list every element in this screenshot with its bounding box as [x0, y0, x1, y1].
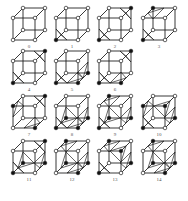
- cube-case-5: [54, 49, 90, 85]
- cube-case-8: [54, 94, 90, 130]
- vertex-marked: [76, 171, 80, 175]
- cube-case-7: [11, 94, 47, 130]
- vertex-unmarked: [11, 59, 15, 63]
- vertex-marked: [97, 126, 101, 130]
- vertex-marked: [64, 161, 68, 165]
- vertex-marked: [54, 126, 58, 130]
- vertex-unmarked: [21, 49, 25, 53]
- vertex-unmarked: [107, 49, 111, 53]
- isosurface-triangle: [110, 72, 126, 83]
- vertex-unmarked: [64, 94, 68, 98]
- vertex-unmarked: [11, 38, 15, 42]
- cube-case-14: [141, 139, 177, 175]
- vertex-marked: [43, 161, 47, 165]
- vertex-unmarked: [141, 149, 145, 153]
- vertex-unmarked: [43, 28, 47, 32]
- vertex-unmarked: [119, 38, 123, 42]
- isosurface-triangle: [13, 101, 24, 117]
- vertex-unmarked: [97, 104, 101, 108]
- vertex-marked: [141, 38, 145, 42]
- vertex-unmarked: [173, 94, 177, 98]
- case-label: 6: [105, 87, 125, 92]
- vertex-marked: [141, 126, 145, 130]
- vertex-unmarked: [54, 171, 58, 175]
- vertex-unmarked: [11, 16, 15, 20]
- case-label: 2: [105, 44, 125, 49]
- case-label: 4: [19, 87, 39, 92]
- vertex-unmarked: [119, 126, 123, 130]
- marching-cubes-diagram: 01234567891011121314: [0, 0, 188, 201]
- case-label: 9: [105, 132, 125, 137]
- vertex-unmarked: [43, 71, 47, 75]
- vertex-marked: [43, 94, 47, 98]
- vertex-unmarked: [107, 161, 111, 165]
- vertex-unmarked: [43, 6, 47, 10]
- cube-case-1: [54, 6, 90, 42]
- vertex-unmarked: [107, 28, 111, 32]
- vertex-unmarked: [129, 28, 133, 32]
- vertex-unmarked: [76, 149, 80, 153]
- vertex-marked: [97, 81, 101, 85]
- cube-case-9: [97, 94, 133, 130]
- case-label: 7: [19, 132, 39, 137]
- vertex-unmarked: [107, 71, 111, 75]
- vertex-marked: [11, 171, 15, 175]
- vertex-unmarked: [21, 6, 25, 10]
- vertex-unmarked: [129, 71, 133, 75]
- vertex-unmarked: [54, 59, 58, 63]
- vertex-unmarked: [21, 71, 25, 75]
- vertex-unmarked: [97, 149, 101, 153]
- vertex-unmarked: [64, 71, 68, 75]
- vertex-unmarked: [86, 6, 90, 10]
- vertex-unmarked: [119, 104, 123, 108]
- vertex-marked: [141, 104, 145, 108]
- isosurface-triangle: [77, 107, 88, 123]
- cube-case-11: [11, 139, 47, 175]
- vertex-marked: [129, 161, 133, 165]
- cube-case-4: [11, 49, 47, 85]
- case-label: 0: [19, 44, 39, 49]
- vertex-unmarked: [11, 149, 15, 153]
- vertex-marked: [129, 6, 133, 10]
- isosurface-triangle: [120, 107, 131, 123]
- vertex-unmarked: [33, 16, 37, 20]
- vertex-unmarked: [173, 6, 177, 10]
- vertex-marked: [151, 161, 155, 165]
- isosurface-triangle: [77, 62, 88, 78]
- vertex-unmarked: [43, 116, 47, 120]
- case-label: 1: [62, 44, 82, 49]
- vertex-unmarked: [129, 139, 133, 143]
- vertex-marked: [129, 116, 133, 120]
- vertex-unmarked: [76, 59, 80, 63]
- vertex-unmarked: [21, 116, 25, 120]
- vertex-unmarked: [33, 81, 37, 85]
- vertex-marked: [64, 139, 68, 143]
- vertex-unmarked: [21, 28, 25, 32]
- vertex-unmarked: [151, 94, 155, 98]
- vertex-unmarked: [64, 49, 68, 53]
- vertex-marked: [173, 116, 177, 120]
- vertex-marked: [54, 38, 58, 42]
- vertex-marked: [151, 139, 155, 143]
- cubes-canvas: [0, 0, 188, 201]
- vertex-unmarked: [64, 28, 68, 32]
- vertex-unmarked: [97, 59, 101, 63]
- vertex-unmarked: [76, 38, 80, 42]
- vertex-unmarked: [151, 28, 155, 32]
- vertex-marked: [64, 116, 68, 120]
- vertex-unmarked: [54, 104, 58, 108]
- vertex-unmarked: [33, 171, 37, 175]
- vertex-unmarked: [21, 139, 25, 143]
- vertex-unmarked: [76, 16, 80, 20]
- case-label: 5: [62, 87, 82, 92]
- vertex-unmarked: [163, 126, 167, 130]
- vertex-unmarked: [76, 104, 80, 108]
- vertex-unmarked: [119, 16, 123, 20]
- case-label: 13: [105, 177, 125, 182]
- vertex-marked: [163, 171, 167, 175]
- vertex-marked: [107, 116, 111, 120]
- vertex-marked: [163, 104, 167, 108]
- isosurface-triangle: [104, 96, 120, 107]
- vertex-marked: [21, 161, 25, 165]
- vertex-marked: [97, 171, 101, 175]
